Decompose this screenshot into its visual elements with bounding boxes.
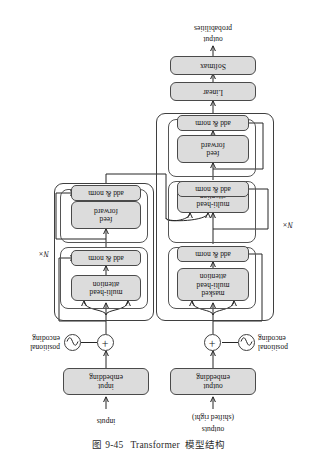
linear-node: Linear [170,82,256,101]
output-embedding-label: output embedding [196,373,230,390]
decoder-masked-multi-head-attention-label: masked multi-head attention [197,272,230,298]
softmax-label: Softmax [200,61,226,70]
decoder-add-norm-1-label: add & norm [195,250,231,258]
linear-label: Linear [203,87,223,96]
decoder-feed-forward-node: feed forward [177,135,249,163]
encoder-repeat-label: N× [38,249,49,258]
decoder-repeat-label: N× [282,220,293,229]
decoder-feed-forward-label: feed forward [201,141,225,158]
decoder-add-norm-2-label: add & norm [195,185,231,193]
encoder-inputs-label: inputs [76,416,136,425]
decoder-add-norm-3-node: add & norm [177,115,249,131]
encoder-add-norm-1-node: add & norm [71,250,141,266]
figure-caption-number: 图 9-45 [92,440,123,450]
output-probabilities-line2: probabilities [178,23,248,32]
softmax-node: Softmax [170,56,256,75]
decoder-plus-symbol: + [204,335,221,352]
figure-caption-tail: 模型结构 [185,440,226,450]
decoder-positional-encoding-label: positional encoding [258,334,312,351]
sine-wave-icon [239,335,254,350]
decoder-add-norm-3-label: add & norm [195,119,231,127]
encoder-positional-encoding-label: positional encoding [6,334,60,351]
transformer-figure: inputs input embedding + positional enco… [0,0,318,461]
encoder-add-norm-2-node: add & norm [71,185,141,201]
encoder-feed-forward-label: feed forward [94,207,118,224]
input-embedding-node: input embedding [63,368,149,395]
decoder-outputs-label: outputs [183,424,243,433]
decoder-add-circle: + [205,334,222,351]
figure-caption: 图 9-45Transformer模型结构 [0,437,318,451]
decoder-shifted-right-label: (shifted right) [176,412,250,421]
encoder-multi-head-attention-node: multi-head attention [71,275,141,301]
encoder-add-norm-1-label: add & norm [88,254,124,262]
decoder-masked-multi-head-attention-node: masked multi-head attention [177,268,249,301]
figure-caption-title: Transformer [130,440,179,450]
encoder-feed-forward-node: feed forward [71,201,141,229]
output-probabilities-line1: output [183,34,243,43]
output-embedding-node: output embedding [170,368,256,395]
decoder-add-norm-2-node: add & norm [177,181,249,197]
input-embedding-label: input embedding [89,373,123,390]
encoder-multi-head-attention-label: multi-head attention [90,280,123,297]
decoder-add-norm-1-node: add & norm [177,246,249,262]
encoder-plus-symbol: + [97,335,114,352]
sine-wave-icon [65,335,80,350]
decoder-sine-circle [238,334,255,351]
encoder-add-circle: + [98,334,115,351]
encoder-add-norm-2-label: add & norm [88,189,124,197]
encoder-sine-circle [64,334,81,351]
